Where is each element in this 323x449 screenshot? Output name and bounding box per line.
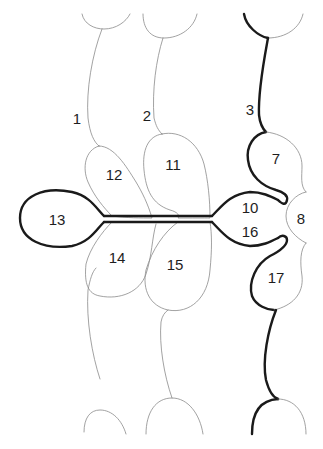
label-12: 12 — [106, 167, 123, 182]
label-7: 7 — [272, 151, 280, 166]
label-15: 15 — [167, 257, 184, 272]
label-10: 10 — [242, 200, 259, 215]
label-14: 14 — [109, 250, 126, 265]
label-1: 1 — [73, 111, 81, 126]
label-11: 11 — [165, 157, 181, 172]
label-17: 17 — [268, 270, 285, 285]
column-1-outline — [82, 14, 130, 434]
label-8: 8 — [297, 211, 305, 226]
column-2-outline — [143, 14, 203, 434]
label-2: 2 — [143, 108, 151, 123]
lobe-11 — [144, 133, 210, 218]
diagram-canvas: 1 2 3 7 8 10 11 12 13 14 15 16 17 — [0, 0, 323, 449]
label-3: 3 — [246, 102, 254, 117]
label-16: 16 — [242, 224, 259, 239]
label-13: 13 — [49, 212, 66, 227]
